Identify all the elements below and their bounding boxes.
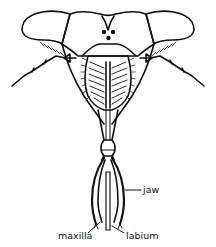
insect-head-diagram: jaw maxilla labium: [0, 0, 216, 247]
label-maxilla: maxilla: [58, 231, 92, 241]
head-capsule: [62, 12, 154, 56]
labium-rod: [106, 172, 110, 230]
labial-mask: [85, 56, 131, 110]
head-drawing: [0, 0, 216, 247]
label-jaw: jaw: [143, 185, 159, 195]
hinge-joint: [101, 140, 115, 156]
prementum: [98, 110, 118, 140]
label-labium: labium: [126, 231, 158, 241]
labium-leader: [112, 226, 124, 233]
